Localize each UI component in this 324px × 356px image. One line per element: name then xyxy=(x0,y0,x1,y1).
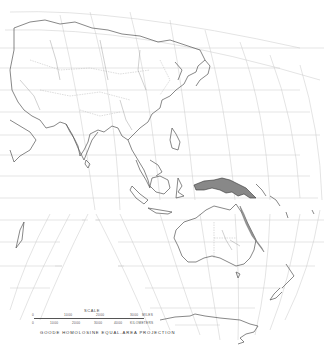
scale-mile-tick: 1000 xyxy=(64,313,72,317)
antarctica-coast xyxy=(160,314,258,344)
internal-borders xyxy=(20,40,170,130)
scale-mile-tick: 3000 xyxy=(130,313,138,317)
scale-km-tick: 4000 xyxy=(114,321,122,325)
new-zealand-landmass xyxy=(270,264,294,300)
pacific-islands xyxy=(256,184,314,218)
lobe-markers xyxy=(55,220,124,266)
scale-km-tick: 0 xyxy=(32,321,34,325)
scale-km-tick: 1000 xyxy=(50,321,58,325)
map-canvas xyxy=(0,0,324,356)
scale-bar xyxy=(34,318,144,319)
scale-km-tick: 3000 xyxy=(94,321,102,325)
australia-landmass xyxy=(174,204,264,278)
asia-landmass xyxy=(10,20,210,248)
new-guinea-highlight xyxy=(194,178,256,198)
scale-mile-tick: 0 xyxy=(32,313,34,317)
scale-miles-unit: MILES xyxy=(142,313,153,317)
graticule xyxy=(0,12,324,340)
scale-km-unit: KILOMETERS xyxy=(130,321,154,325)
projection-label: GOODE HOMOLOSINE EQUAL-AREA PROJECTION xyxy=(40,330,175,335)
scale-km-tick: 2000 xyxy=(72,321,80,325)
scale-mile-tick: 2000 xyxy=(96,313,104,317)
